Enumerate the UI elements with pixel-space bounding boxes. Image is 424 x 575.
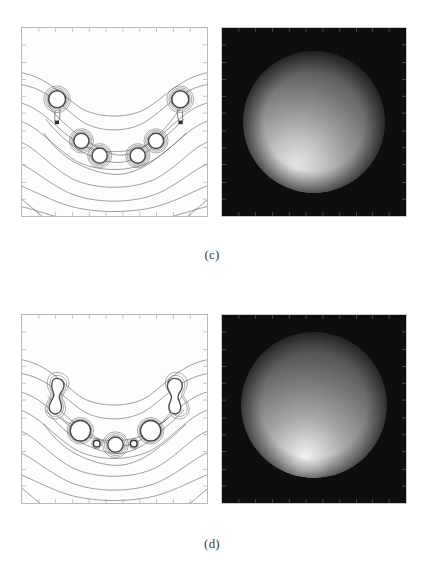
contour-plot-c bbox=[21, 27, 208, 217]
vortex-tail-marker-right-c bbox=[179, 121, 183, 125]
vortex-core-satellite-left-d bbox=[92, 438, 102, 448]
panel-group-c: (c) bbox=[0, 0, 424, 287]
contour-svg-d bbox=[22, 315, 207, 503]
contour-plot-d bbox=[21, 314, 208, 504]
panel-caption-d: (d) bbox=[0, 536, 424, 552]
vortex-core-inner-left-d bbox=[67, 418, 94, 445]
panel-group-d: (d) bbox=[0, 287, 424, 575]
density-svg-d bbox=[222, 315, 406, 503]
contour-svg-c bbox=[22, 28, 207, 216]
vortex-core-inner-right-d bbox=[137, 418, 164, 445]
density-disk-edge-shade-d bbox=[241, 332, 386, 477]
figure-root: (c) bbox=[0, 0, 424, 575]
density-disk-edge-shade-c bbox=[243, 51, 384, 192]
density-svg-c bbox=[222, 28, 406, 216]
vortex-core-satellite-right-d bbox=[129, 438, 139, 448]
vortex-tail-marker-left-c bbox=[55, 121, 59, 125]
density-plot-d bbox=[221, 314, 407, 504]
panel-caption-c: (c) bbox=[0, 247, 424, 263]
density-plot-c bbox=[221, 27, 407, 217]
